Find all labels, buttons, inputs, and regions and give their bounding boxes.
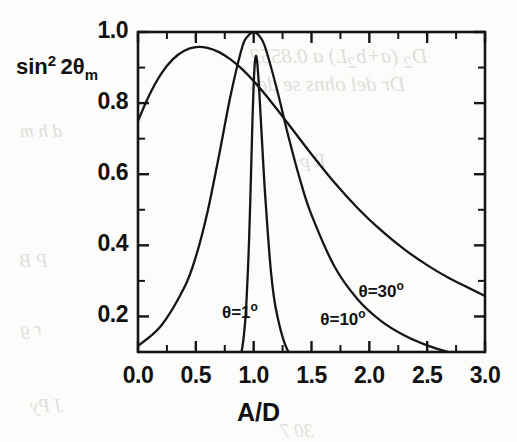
- y-tick-label: 1.0: [62, 17, 128, 44]
- curve-10deg: [138, 32, 485, 361]
- curve-label-30deg: θ=30o: [358, 279, 403, 302]
- figure-container: D2 (a+b2L) a 0.8552 Dr del ohns se des d…: [0, 0, 517, 442]
- data-curves: [138, 32, 485, 387]
- x-tick-label: 2.0: [344, 362, 394, 389]
- degree-symbol: o: [358, 307, 365, 321]
- y-tick-label: 0.2: [62, 301, 128, 328]
- curve-label-text: θ=1: [222, 303, 251, 322]
- plot-frame: [138, 32, 485, 352]
- x-tick-label: 1.5: [287, 362, 337, 389]
- y-tick-label: 0.6: [62, 159, 128, 186]
- plot-border: [138, 32, 485, 352]
- x-tick-label: 0.5: [171, 362, 221, 389]
- curve-30deg: [138, 47, 485, 296]
- degree-symbol: o: [396, 279, 403, 293]
- curve-label-10deg: θ=10o: [320, 307, 365, 330]
- x-tick-label: 0.0: [113, 362, 163, 389]
- x-tick-label: 2.5: [402, 362, 452, 389]
- x-tick-label: 1.0: [229, 362, 279, 389]
- y-tick-label: 0.8: [62, 88, 128, 115]
- curve-label-1deg: θ=1o: [222, 300, 258, 323]
- y-tick-label: 0.4: [62, 230, 128, 257]
- x-axis-title: A/D: [0, 398, 517, 427]
- x-tick-label: 3.0: [460, 362, 510, 389]
- curve-label-text: θ=10: [320, 310, 358, 329]
- degree-symbol: o: [251, 300, 258, 314]
- axis-ticks: [138, 32, 485, 352]
- curve-1deg: [138, 56, 485, 387]
- curve-label-text: θ=30: [358, 281, 396, 300]
